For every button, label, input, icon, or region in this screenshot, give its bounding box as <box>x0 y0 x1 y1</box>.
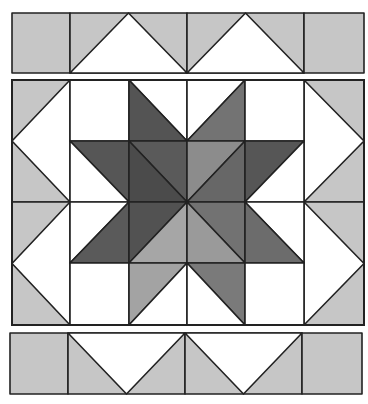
quilt-diagram <box>0 0 368 404</box>
plain-square <box>245 263 304 325</box>
star-cell <box>129 263 187 325</box>
star-cell <box>187 202 245 263</box>
star-cell <box>129 80 187 141</box>
star-cell <box>70 263 129 325</box>
top-border-unit-goose-up <box>70 13 187 73</box>
star-cell <box>187 263 245 325</box>
plain-square <box>245 80 304 141</box>
bottom-border-unit-goose-down <box>68 333 185 394</box>
top-border <box>12 13 364 73</box>
top-border-unit-goose-up <box>187 13 304 73</box>
star-cell <box>187 80 245 141</box>
plain-square <box>70 263 129 325</box>
bottom-border-square <box>302 333 362 394</box>
bottom-border-unit-goose-down <box>185 333 302 394</box>
side-goose-right <box>304 202 364 325</box>
star-cell <box>129 141 187 202</box>
bottom-border-square <box>10 333 68 394</box>
plain-square <box>70 80 129 141</box>
star-cell <box>70 202 129 263</box>
bottom-border-unit-square <box>302 333 362 394</box>
top-border-unit-square <box>304 13 364 73</box>
star-cell <box>245 141 304 202</box>
star-cell <box>187 141 245 202</box>
star-cell <box>70 80 129 141</box>
star-cell <box>245 263 304 325</box>
star-cell <box>70 141 129 202</box>
side-goose-left <box>12 202 70 325</box>
side-goose-left <box>12 80 70 202</box>
star-block <box>12 80 364 325</box>
side-goose-right <box>304 80 364 202</box>
star-cell <box>245 80 304 141</box>
top-border-unit-square <box>12 13 70 73</box>
top-border-square <box>304 13 364 73</box>
bottom-border-unit-square <box>10 333 68 394</box>
bottom-border <box>10 333 362 394</box>
top-border-square <box>12 13 70 73</box>
star-cell <box>245 202 304 263</box>
star-cell <box>129 202 187 263</box>
